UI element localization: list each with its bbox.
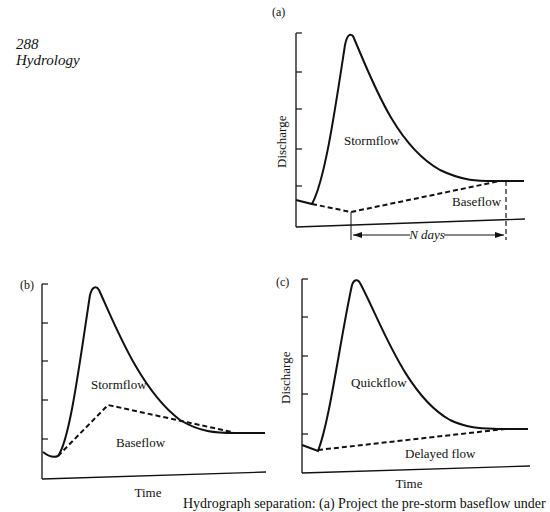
panel-c-region-delayed-flow: Delayed flow	[405, 446, 476, 461]
panel-b-ticks	[42, 284, 48, 439]
panel-a-x-axis	[296, 219, 525, 227]
panel-a: (a) N days Discharge Stormflow Baseflow	[272, 5, 525, 242]
panel-b: (b) Stormflow Baseflow Time	[20, 278, 266, 500]
arrowhead-left-icon	[353, 232, 362, 238]
arrowhead-right-icon	[495, 232, 504, 238]
panel-a-region-stormflow: Stormflow	[344, 133, 400, 148]
panel-b-hydrograph-line	[43, 287, 265, 457]
panel-a-ticks	[296, 33, 302, 186]
panel-b-label: (b)	[20, 278, 34, 292]
panel-c-label: (c)	[276, 275, 289, 289]
panel-a-y-axis-label: Discharge	[274, 115, 289, 168]
panel-b-region-stormflow: Stormflow	[91, 377, 147, 392]
panel-b-region-baseflow: Baseflow	[116, 435, 166, 450]
panel-b-x-axis-label: Time	[135, 485, 162, 500]
panel-a-n-days-label: N days	[408, 227, 445, 242]
panel-a-hydrograph-line	[296, 35, 524, 204]
panel-c: (c) Discharge Quickflow Delayed flow Tim…	[276, 275, 530, 491]
panel-a-region-baseflow: Baseflow	[452, 194, 502, 209]
panel-c-y-axis-label: Discharge	[278, 351, 293, 404]
figure-caption-fragment: Hydrograph separation: (a) Project the p…	[183, 496, 546, 512]
panel-a-label: (a)	[272, 5, 285, 19]
panel-c-x-axis	[302, 466, 530, 473]
panel-c-hydrograph-line	[302, 280, 528, 451]
panel-c-x-axis-label: Time	[396, 476, 423, 491]
panel-b-x-axis	[42, 472, 266, 479]
panel-c-ticks	[302, 279, 308, 434]
panel-c-region-quickflow: Quickflow	[351, 375, 407, 390]
